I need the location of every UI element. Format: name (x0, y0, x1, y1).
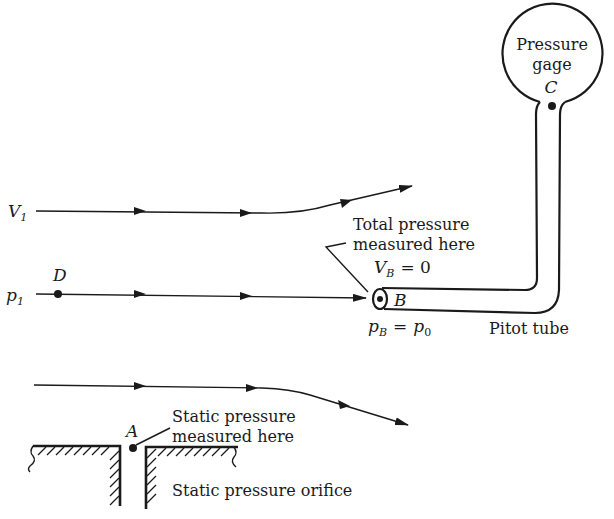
total-pressure-line1: Total pressure (353, 215, 469, 234)
point-a-label: A (124, 421, 138, 441)
pitot-tube-label: Pitot tube (489, 319, 569, 338)
static-pressure-line2: measured here (172, 427, 294, 446)
pitot-tube (373, 114, 560, 313)
point-d-dot (54, 290, 62, 298)
static-pressure-line1: Static pressure (172, 407, 296, 426)
total-pressure-line2: measured here (353, 235, 475, 254)
p1-label: p1 (6, 285, 24, 308)
gauge-label-line2: gage (532, 55, 572, 74)
flow-arrow-icon (134, 382, 146, 390)
point-a-dot (129, 444, 137, 452)
point-c-label: C (544, 77, 557, 97)
point-b-label: B (393, 290, 407, 310)
flow-arrow-icon (340, 199, 352, 208)
v1-label: V1 (8, 201, 27, 224)
pitot-tube-diagram: Pressure gage C B V1 p1 D Total pressure… (0, 0, 614, 519)
streamline-top (36, 186, 412, 217)
flow-arrow-icon (134, 290, 146, 298)
flow-arrow-icon (134, 207, 146, 215)
flow-arrow-icon (240, 209, 252, 217)
point-b-dot (377, 296, 383, 302)
static-pressure-leader (136, 428, 170, 445)
flow-arrow-icon (246, 384, 258, 392)
streamline-middle (36, 290, 366, 300)
gauge-label-line1: Pressure (516, 35, 588, 54)
vb-label: VB= 0 (374, 257, 431, 280)
static-orifice-label: Static pressure orifice (172, 481, 352, 500)
flow-arrow-icon (240, 292, 252, 300)
point-c-dot (548, 102, 556, 110)
pb-equals-p0: pB=p0 (368, 316, 431, 339)
point-d-label: D (52, 265, 67, 285)
flow-arrow-icon (338, 400, 350, 409)
